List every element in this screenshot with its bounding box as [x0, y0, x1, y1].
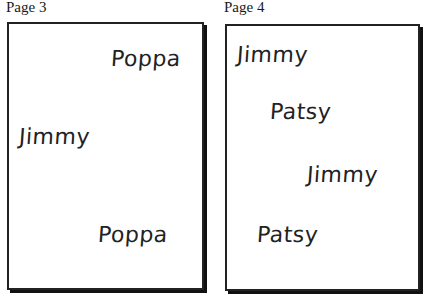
word-patsy: Patsy — [269, 99, 332, 124]
page-4-label: Page 4 — [224, 0, 264, 16]
word-poppa: Poppa — [97, 222, 169, 247]
word-jimmy: Jimmy — [236, 42, 309, 67]
word-jimmy: Jimmy — [306, 162, 379, 187]
page-4: Jimmy Patsy Jimmy Patsy — [225, 24, 420, 291]
page-3-label: Page 3 — [6, 0, 46, 16]
word-jimmy: Jimmy — [18, 124, 91, 149]
word-patsy: Patsy — [256, 222, 319, 247]
word-poppa: Poppa — [110, 46, 182, 71]
page-3: Poppa Jimmy Poppa — [7, 22, 204, 290]
